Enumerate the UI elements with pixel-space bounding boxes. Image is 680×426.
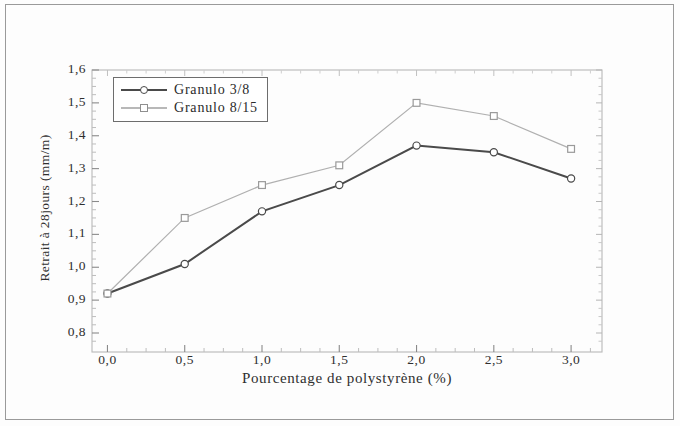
data-point-marker <box>336 162 343 169</box>
y-axis-tick-label: 0,8 <box>46 324 86 340</box>
legend-item-granulo-3-8: Granulo 3/8 <box>121 81 258 99</box>
data-point-marker <box>490 113 497 120</box>
data-point-marker <box>567 175 574 182</box>
data-point-marker <box>259 182 266 189</box>
x-axis-tick-label: 2,0 <box>395 352 439 368</box>
data-point-marker <box>413 99 420 106</box>
chart-figure: 0,80,91,01,11,21,31,41,51,6 0,00,51,01,5… <box>0 0 680 426</box>
data-point-marker <box>490 149 497 156</box>
x-axis-tick-label: 1,0 <box>240 352 284 368</box>
data-point-marker <box>336 181 343 188</box>
data-point-marker <box>181 260 188 267</box>
series-line <box>108 103 572 294</box>
chart-legend: Granulo 3/8 Granulo 8/15 <box>113 77 268 122</box>
y-axis-tick-label: 1,6 <box>46 61 86 77</box>
data-point-marker <box>568 146 575 153</box>
x-axis-tick-label: 3,0 <box>549 352 593 368</box>
x-axis-tick-label: 0,0 <box>85 352 129 368</box>
x-axis-tick-label: 2,5 <box>472 352 516 368</box>
data-point-marker <box>104 290 111 297</box>
legend-item-granulo-8-15: Granulo 8/15 <box>121 99 258 117</box>
y-axis-title: Retrait à 28jours (mm/m) <box>37 93 53 323</box>
x-axis-title: Pourcentage de polystyrène (%) <box>92 370 602 387</box>
x-axis-tick-label: 0,5 <box>163 352 207 368</box>
data-point-marker <box>181 215 188 222</box>
legend-marker-granulo-8-15 <box>121 102 167 114</box>
legend-label-granulo-8-15: Granulo 8/15 <box>174 100 258 116</box>
legend-label-granulo-3-8: Granulo 3/8 <box>174 82 250 98</box>
data-point-marker <box>258 208 265 215</box>
data-series-layer <box>104 99 575 297</box>
data-point-marker <box>413 142 420 149</box>
x-axis-tick-label: 1,5 <box>317 352 361 368</box>
figure-page: 0,80,91,01,11,21,31,41,51,6 0,00,51,01,5… <box>0 0 680 426</box>
legend-marker-granulo-3-8 <box>121 84 167 96</box>
